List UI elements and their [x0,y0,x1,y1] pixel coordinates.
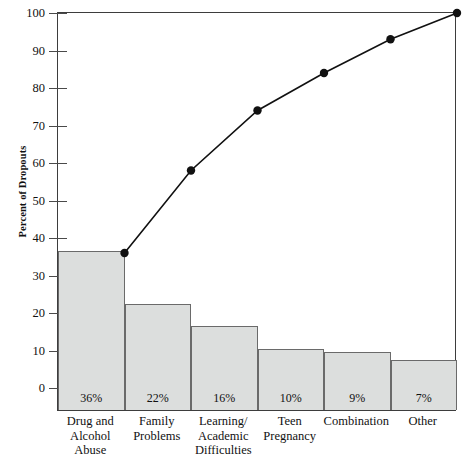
category-label-line: Problems [124,429,191,444]
category-label-line: Other [390,414,457,429]
y-tick-label: 20 [33,306,46,321]
x-axis-category-label: Other [390,414,457,429]
category-label-line: Teen [257,414,324,429]
cumulative-line-series [58,13,457,412]
y-tick-label: 50 [33,193,46,208]
y-tick-label: 90 [33,43,46,58]
cumulative-point-marker [187,166,195,174]
y-tick-label: 40 [33,231,46,246]
y-tick-mark [49,126,58,127]
cumulative-point-marker [120,249,128,257]
y-tick-label: 70 [33,118,46,133]
y-tick-label: 30 [33,268,46,283]
y-tick-label: 80 [33,81,46,96]
cumulative-point-marker [253,106,261,114]
y-tick-mark [49,51,58,52]
category-label-line: Academic [190,429,257,444]
plot-area: 0102030405060708090100 36%22%16%10%9%7% [57,12,456,411]
y-tick-mark [49,201,58,202]
x-axis-category-labels: Drug andAlcoholAbuseFamilyProblemsLearni… [57,414,456,466]
y-tick-mark [49,238,58,239]
category-label-line: Family [124,414,191,429]
category-label-line: Drug and [57,414,124,429]
cumulative-line [125,13,458,253]
cumulative-point-marker [453,9,461,17]
y-axis-title: Percent of Dropouts [17,122,28,262]
y-tick-mark [49,163,58,164]
y-tick-mark [49,276,58,277]
y-tick-label: 10 [33,343,46,358]
category-label-line: Difficulties [190,443,257,458]
category-label-line: Abuse [57,443,124,458]
y-tick-label: 60 [33,156,46,171]
pareto-chart: Percent of Dropouts 01020304050607080901… [0,0,474,466]
y-tick-mark [49,13,58,14]
y-tick-mark [49,313,58,314]
cumulative-point-marker [386,35,394,43]
x-axis-category-label: TeenPregnancy [257,414,324,443]
category-label-line: Combination [323,414,390,429]
category-label-line: Pregnancy [257,429,324,444]
category-label-line: Alcohol [57,429,124,444]
y-tick-label: 0 [39,381,45,396]
x-axis-category-label: Learning/AcademicDifficulties [190,414,257,458]
y-tick-mark [49,88,58,89]
y-tick-label: 100 [26,6,45,21]
cumulative-point-marker [320,69,328,77]
x-axis-category-label: FamilyProblems [124,414,191,443]
y-tick-mark [49,388,58,389]
x-axis-category-label: Combination [323,414,390,429]
y-tick-mark [49,351,58,352]
category-label-line: Learning/ [190,414,257,429]
x-axis-category-label: Drug andAlcoholAbuse [57,414,124,458]
